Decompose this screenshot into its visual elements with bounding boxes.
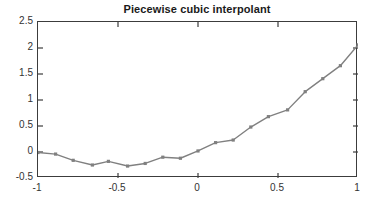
x-tick-label: -0.5 — [108, 183, 125, 193]
data-point-marker — [304, 90, 307, 93]
data-point-marker — [321, 77, 324, 80]
data-point-marker — [339, 64, 342, 67]
data-point-marker — [249, 125, 252, 128]
x-tick-label: -1 — [33, 183, 42, 193]
data-point-marker — [196, 149, 199, 152]
data-point-marker — [161, 156, 164, 159]
series-markers-interpolant — [38, 43, 358, 167]
data-point-marker — [356, 43, 358, 46]
data-point-marker — [54, 152, 57, 155]
data-point-marker — [214, 141, 217, 144]
axis-ticks — [38, 22, 358, 178]
plot-area — [37, 21, 357, 177]
data-point-marker — [179, 157, 182, 160]
figure-canvas: Piecewise cubic interpolant -0.500.511.5… — [0, 0, 367, 206]
data-point-marker — [107, 160, 110, 163]
x-tick-label: 0.5 — [270, 183, 284, 193]
data-point-marker — [267, 115, 270, 118]
x-tick-label: 0 — [194, 183, 200, 193]
data-point-marker — [286, 108, 289, 111]
data-point-marker — [232, 138, 235, 141]
data-point-marker — [38, 151, 40, 154]
x-tick-label: 1 — [354, 183, 360, 193]
series-line-interpolant — [38, 45, 358, 166]
data-series-svg — [38, 22, 358, 178]
data-point-marker — [72, 159, 75, 162]
data-point-marker — [144, 162, 147, 165]
data-point-marker — [126, 164, 129, 167]
data-point-marker — [91, 163, 94, 166]
